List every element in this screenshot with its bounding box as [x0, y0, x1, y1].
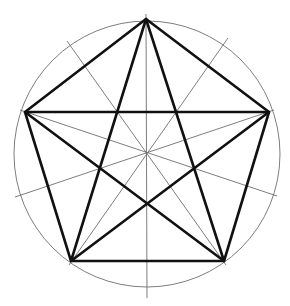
symmetry-axis-1 [146, 14, 147, 298]
pentagon-pentagram-diagram [0, 0, 290, 306]
symmetry-axis-3 [69, 38, 228, 265]
symmetry-axis-5 [20, 110, 277, 196]
symmetry-axis-4 [15, 110, 274, 197]
